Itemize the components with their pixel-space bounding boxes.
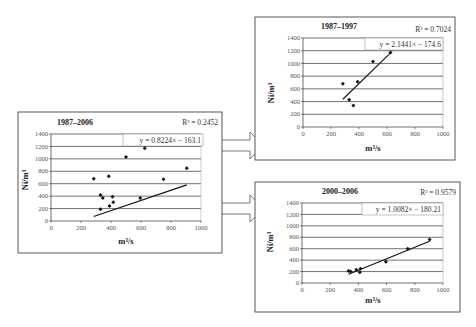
y-tick-label: 600 [290, 85, 300, 92]
y-tick-label: 1000 [287, 60, 300, 67]
y-axis-label: Ni/m³ [20, 169, 30, 190]
chart-title: 2000–2006 [322, 187, 358, 196]
y-tick-label: 400 [290, 98, 300, 105]
charts-layer: 0200400600800100012001400020040060080010… [18, 17, 460, 312]
y-tick-label: 800 [290, 72, 300, 79]
x-tick-label: 400 [354, 130, 364, 137]
figure-canvas: 0200400600800100012001400020040060080010… [0, 0, 476, 327]
x-axis-label: m³/s [365, 295, 381, 305]
y-tick-label: 0 [296, 279, 299, 286]
x-tick-label: 800 [410, 286, 420, 293]
chart-frame [18, 112, 222, 253]
x-tick-label: 600 [136, 224, 146, 231]
y-tick-label: 800 [289, 233, 299, 240]
trendline-equation: y = 2.1441× − 174.6 [380, 40, 442, 49]
y-tick-label: 1200 [287, 47, 300, 54]
x-tick-label: 400 [106, 224, 116, 231]
y-tick-label: 0 [45, 217, 48, 224]
x-tick-label: 200 [325, 286, 335, 293]
y-tick-label: 600 [289, 245, 299, 252]
x-tick-label: 1000 [437, 286, 450, 293]
y-tick-label: 1200 [35, 143, 48, 150]
r-squared-label: R² = 0.9579 [420, 188, 456, 197]
y-axis-label: Ni/m³ [266, 82, 276, 103]
y-tick-label: 400 [38, 192, 48, 199]
x-tick-label: 1000 [195, 224, 208, 231]
x-tick-label: 0 [49, 224, 52, 231]
chart-bottom-right: 0200400600800100012001400020040060080010… [255, 182, 460, 312]
trendline-equation: y = 0.8224× − 163.1 [140, 136, 202, 145]
x-axis-label: m³/s [118, 236, 134, 246]
y-tick-label: 1200 [286, 211, 299, 218]
y-tick-label: 1400 [286, 199, 299, 206]
x-tick-label: 600 [382, 286, 392, 293]
chart-title: 1987–2006 [57, 118, 93, 127]
y-tick-label: 1000 [286, 222, 299, 229]
y-tick-label: 800 [38, 167, 48, 174]
x-tick-label: 800 [166, 224, 176, 231]
x-tick-label: 400 [354, 286, 364, 293]
y-tick-label: 0 [297, 123, 300, 130]
chart-title: 1987–1997 [321, 22, 357, 31]
y-tick-label: 200 [38, 205, 48, 212]
y-axis-label: Ni/m³ [265, 231, 275, 252]
x-axis-label: m³/s [365, 143, 381, 153]
y-tick-label: 1000 [35, 155, 48, 162]
r-squared-label: R² = 0.7024 [415, 25, 451, 34]
chart-left: 0200400600800100012001400020040060080010… [18, 112, 222, 253]
x-tick-label: 1000 [437, 130, 450, 137]
y-tick-label: 200 [290, 110, 300, 117]
chart-top-right: 0200400600800100012001400020040060080010… [255, 17, 455, 160]
y-tick-label: 600 [38, 180, 48, 187]
y-tick-label: 200 [289, 268, 299, 275]
y-tick-label: 1400 [287, 34, 300, 41]
x-tick-label: 800 [410, 130, 420, 137]
r-squared-label: R² = 0.2452 [182, 118, 218, 127]
y-tick-label: 1400 [35, 130, 48, 137]
x-tick-label: 200 [76, 224, 86, 231]
x-tick-label: 200 [326, 130, 336, 137]
trendline-equation: y = 1.0082× − 180.21 [376, 205, 441, 214]
x-tick-label: 0 [301, 130, 304, 137]
x-tick-label: 600 [382, 130, 392, 137]
y-tick-label: 400 [289, 256, 299, 263]
x-tick-label: 0 [300, 286, 303, 293]
